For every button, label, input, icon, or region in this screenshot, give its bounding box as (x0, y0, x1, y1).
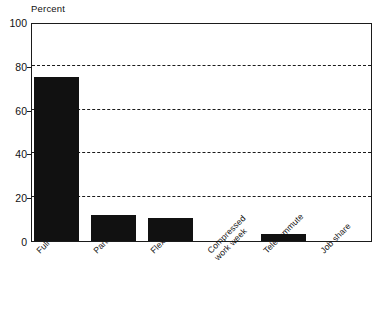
y-axis-tick-labels: 020406080100 (0, 23, 27, 242)
y-axis-tick-label: 60 (15, 105, 27, 117)
y-axis-tick-label: 40 (15, 148, 27, 160)
y-axis-tick-label: 100 (9, 17, 27, 29)
x-axis-tick-labels: Full-timePart-timeFlexitimeCompressedwor… (0, 243, 387, 310)
y-axis-title: Percent (31, 3, 65, 14)
y-axis-tick-mark (27, 67, 31, 68)
y-axis-tick-label: 80 (15, 61, 27, 73)
y-axis-tick-mark (27, 111, 31, 112)
bars-group (32, 24, 371, 241)
y-axis-tick-mark (27, 198, 31, 199)
y-axis-tick-mark (27, 154, 31, 155)
bar (34, 77, 79, 241)
bar-chart: Percent 020406080100 Full-timePart-timeF… (0, 0, 387, 310)
y-axis-tick-label: 20 (15, 192, 27, 204)
plot-area (31, 23, 372, 242)
